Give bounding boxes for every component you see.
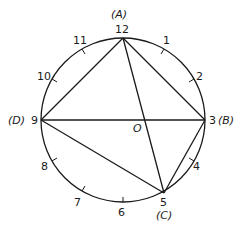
center-label-o: O bbox=[133, 122, 142, 135]
hour-9: 9 bbox=[31, 114, 38, 127]
segment-d-c bbox=[41, 120, 164, 193]
hour-12: 12 bbox=[115, 23, 129, 36]
label-c: (C) bbox=[156, 209, 172, 222]
hour-10: 10 bbox=[37, 70, 51, 83]
segment-a-c bbox=[123, 38, 164, 193]
clock-diagram: (A) 12 1 2 3 (B) 4 5 (C) 6 7 8 9 (D) 10 … bbox=[0, 0, 245, 226]
label-a: (A) bbox=[111, 8, 127, 21]
hour-3: 3 bbox=[209, 114, 216, 127]
hour-8: 8 bbox=[41, 160, 48, 173]
hour-5: 5 bbox=[160, 196, 167, 209]
hour-11: 11 bbox=[73, 34, 87, 47]
hour-2: 2 bbox=[196, 70, 203, 83]
segment-b-c bbox=[164, 120, 205, 193]
hour-4: 4 bbox=[193, 160, 200, 173]
segment-a-d bbox=[41, 38, 123, 120]
hour-1: 1 bbox=[163, 34, 170, 47]
segment-a-b bbox=[123, 38, 205, 120]
hour-6: 6 bbox=[118, 206, 125, 219]
hour-7: 7 bbox=[74, 196, 81, 209]
label-b: (B) bbox=[218, 114, 234, 127]
hour-ticks bbox=[52, 49, 194, 202]
label-d: (D) bbox=[8, 114, 25, 127]
